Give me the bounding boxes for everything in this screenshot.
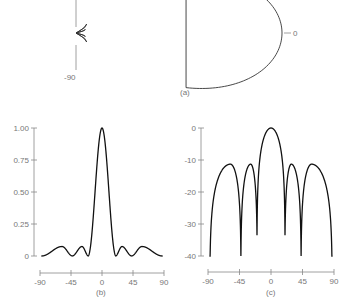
c-xtick-label: 90 [330, 277, 339, 286]
polar-label-zero: 0 [293, 29, 298, 38]
polar-sidelobes [76, 24, 87, 42]
caption-c: (c) [266, 288, 276, 297]
b-ytick-label: 0.75 [13, 156, 29, 165]
c-pattern-curve-db [209, 128, 332, 256]
polar-main-lobe [186, 0, 282, 88]
panel-a: 0 -90 (a) [64, 0, 298, 97]
b-ytick-label: 0.25 [13, 220, 29, 229]
b-ytick-label: 1.00 [13, 124, 29, 133]
c-xtick-label: -45 [234, 277, 246, 286]
b-x-ticks: -90-4504590 [34, 270, 169, 287]
b-ytick-label: 0.50 [13, 188, 29, 197]
b-pattern-curve [41, 128, 162, 256]
c-ytick-label: -30 [184, 220, 196, 229]
c-xtick-label: 0 [269, 277, 274, 286]
c-xtick-label: 45 [298, 277, 307, 286]
c-x-ticks: -90-4504590 [202, 269, 339, 286]
b-xtick-label: -45 [65, 278, 77, 287]
c-xtick-label: -90 [202, 277, 214, 286]
b-xtick-label: 45 [129, 278, 138, 287]
polar-label-minus90: -90 [64, 73, 76, 82]
c-ytick-label: -20 [184, 188, 196, 197]
figure: 0 -90 (a) 00.250.500.751.00 -90-4504590 … [0, 0, 340, 307]
panel-b: 00.250.500.751.00 -90-4504590 (b) [13, 124, 169, 297]
b-xtick-label: -90 [34, 278, 46, 287]
b-xtick-label: 90 [160, 278, 169, 287]
c-ytick-label: -10 [184, 156, 196, 165]
c-ytick-label: -40 [184, 252, 196, 261]
b-y-ticks: 00.250.500.751.00 [13, 124, 37, 261]
caption-a: (a) [180, 88, 190, 97]
caption-b: (b) [96, 288, 106, 297]
panel-c: 0-10-20-30-40 -90-4504590 (c) [184, 124, 339, 297]
b-xtick-label: 0 [100, 278, 105, 287]
b-ytick-label: 0 [25, 252, 30, 261]
c-ytick-label: 0 [192, 124, 197, 133]
